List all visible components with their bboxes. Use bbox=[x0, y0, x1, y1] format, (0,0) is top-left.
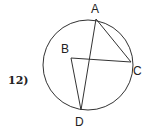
label-c: C bbox=[133, 64, 142, 78]
geometry-diagram: 12) A B C D bbox=[0, 0, 144, 130]
segment-bd bbox=[71, 58, 81, 110]
label-b: B bbox=[61, 42, 69, 56]
segments bbox=[71, 19, 131, 110]
segment-ad bbox=[81, 19, 96, 110]
problem-number: 12) bbox=[8, 74, 29, 87]
segment-bc bbox=[71, 58, 131, 62]
label-a: A bbox=[91, 2, 99, 16]
label-d: D bbox=[75, 115, 84, 129]
